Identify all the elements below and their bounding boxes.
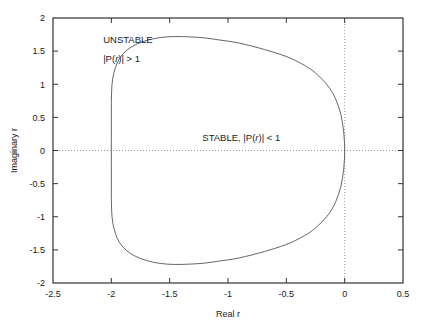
y-tick-label: -0.5 (29, 179, 45, 189)
x-tick-label: -1 (224, 289, 232, 299)
unstable-condition: |P(r)| > 1 (103, 53, 140, 64)
y-tick-label: -1 (37, 212, 45, 222)
y-axis-title: Imaginary r (9, 128, 19, 173)
x-tick-label: 0.5 (397, 289, 410, 299)
x-tick-label: -2.5 (45, 289, 61, 299)
stability-region-figure: -2.5-2-1.5-1-0.500.5 -2-1.5-1-0.500.511.… (0, 0, 429, 330)
y-tick-label: 1 (40, 80, 45, 90)
figure-background (0, 0, 429, 330)
x-tick-label: -1.5 (162, 289, 178, 299)
y-tick-label: 2 (40, 13, 45, 23)
x-axis-title: Real r (216, 309, 240, 319)
stability-region-plot: -2.5-2-1.5-1-0.500.5 -2-1.5-1-0.500.511.… (0, 0, 429, 330)
x-tick-label: -2 (107, 289, 115, 299)
y-tick-label: 0 (40, 146, 45, 156)
y-tick-label: -2 (37, 278, 45, 288)
y-tick-label: 1.5 (32, 46, 45, 56)
stable-label: STABLE, |P(r)| < 1 (202, 132, 280, 143)
y-tick-label: -1.5 (29, 245, 45, 255)
unstable-label: UNSTABLE (103, 34, 152, 45)
y-tick-label: 0.5 (32, 113, 45, 123)
x-tick-label: -0.5 (279, 289, 295, 299)
x-tick-label: 0 (342, 289, 347, 299)
